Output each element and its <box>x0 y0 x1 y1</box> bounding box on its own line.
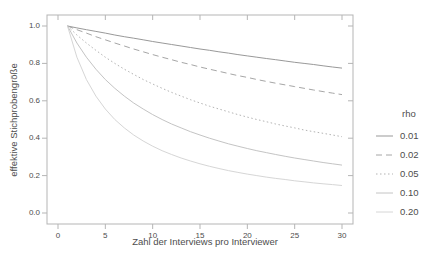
legend-item-0.05: 0.05 <box>376 164 419 183</box>
x-tick-label-0: 0 <box>56 232 60 240</box>
series-line-0.01 <box>68 26 343 68</box>
axis-ticks <box>42 15 353 229</box>
series-line-0.10 <box>68 26 343 165</box>
legend-line-swatch <box>376 153 393 157</box>
y-tick-label-0.4: 0.4 <box>29 134 40 142</box>
legend-label: 0.20 <box>400 206 419 217</box>
x-axis-label: Zahl der Interviews pro Interviewer <box>132 236 278 247</box>
x-tick-label-5: 5 <box>103 232 107 240</box>
legend-line-swatch <box>376 210 393 214</box>
y-tick-label-0.8: 0.8 <box>29 59 40 67</box>
y-tick-label-0.6: 0.6 <box>29 97 40 105</box>
data-curves <box>68 26 343 186</box>
series-line-0.05 <box>68 26 343 137</box>
legend-line-swatch <box>376 172 393 176</box>
series-line-0.02 <box>68 26 343 95</box>
legend-items: 0.010.020.050.100.20 <box>376 126 419 221</box>
plot-area <box>0 0 439 255</box>
x-tick-label-25: 25 <box>290 232 299 240</box>
legend-item-0.20: 0.20 <box>376 202 419 221</box>
y-axis-label: effektive Stichprobengröße <box>8 63 19 176</box>
legend-title: rho <box>402 108 419 119</box>
chart-figure: 1.00.80.60.40.20.0 051015202530 Zahl der… <box>0 0 439 255</box>
legend-item-0.01: 0.01 <box>376 126 419 145</box>
legend-line-swatch <box>376 191 393 195</box>
legend-item-0.10: 0.10 <box>376 183 419 202</box>
y-tick-label-0.2: 0.2 <box>29 172 40 180</box>
legend-label: 0.01 <box>400 130 419 141</box>
x-tick-label-30: 30 <box>338 232 347 240</box>
legend-label: 0.05 <box>400 168 419 179</box>
legend-label: 0.10 <box>400 187 419 198</box>
legend-line-swatch <box>376 134 393 138</box>
y-tick-label-0.0: 0.0 <box>29 209 40 217</box>
plot-frame <box>47 15 353 224</box>
legend-label: 0.02 <box>400 149 419 160</box>
legend: rho 0.010.020.050.100.20 <box>376 108 419 221</box>
legend-item-0.02: 0.02 <box>376 145 419 164</box>
y-tick-label-1.0: 1.0 <box>29 22 40 30</box>
